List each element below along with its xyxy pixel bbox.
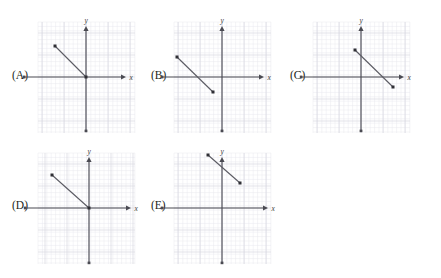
grid-minor — [174, 153, 271, 264]
x-axis-label: x — [134, 204, 139, 213]
grid-major — [38, 153, 135, 264]
line-segment — [51, 174, 91, 210]
line-segment — [354, 49, 395, 89]
grid-minor — [313, 22, 410, 133]
option-label-d[interactable]: (D) — [12, 200, 28, 212]
y-axis-label: y — [220, 16, 225, 25]
grid-minor — [38, 153, 135, 264]
figure-canvas: (A)xy(B)xy(C)xy(D)xy(E)xy — [0, 0, 441, 278]
axes — [24, 157, 131, 264]
option-label-c[interactable]: (C) — [290, 70, 305, 82]
line-segment — [176, 56, 215, 94]
grid-minor — [38, 22, 135, 133]
x-axis-label: x — [267, 73, 272, 82]
grid-major — [174, 153, 271, 264]
graph-panel-e[interactable]: xy — [0, 0, 441, 278]
axes — [161, 157, 268, 264]
option-label-e[interactable]: (E) — [151, 200, 166, 212]
line-segment — [207, 154, 242, 185]
x-axis-label: x — [407, 73, 412, 82]
y-axis-label: y — [359, 16, 364, 25]
y-axis-label: y — [87, 147, 92, 156]
graph-panel-b[interactable]: xy — [0, 0, 441, 278]
option-label-a[interactable]: (A) — [12, 70, 28, 82]
grid-major — [38, 22, 135, 133]
axes — [161, 26, 264, 132]
grid-major — [174, 22, 271, 133]
graph-panel-c[interactable]: xy — [0, 0, 441, 278]
y-axis-label: y — [220, 147, 225, 156]
grid-minor — [174, 22, 271, 133]
axes — [300, 26, 404, 132]
axes — [23, 26, 126, 132]
graph-panel-a[interactable]: xy — [0, 0, 441, 278]
graph-panel-d[interactable]: xy — [0, 0, 441, 278]
x-axis-label: x — [271, 204, 276, 213]
option-label-b[interactable]: (B) — [151, 70, 166, 82]
grid-major — [313, 22, 410, 133]
y-axis-label: y — [84, 16, 89, 25]
line-segment — [54, 45, 88, 79]
x-axis-label: x — [129, 73, 134, 82]
